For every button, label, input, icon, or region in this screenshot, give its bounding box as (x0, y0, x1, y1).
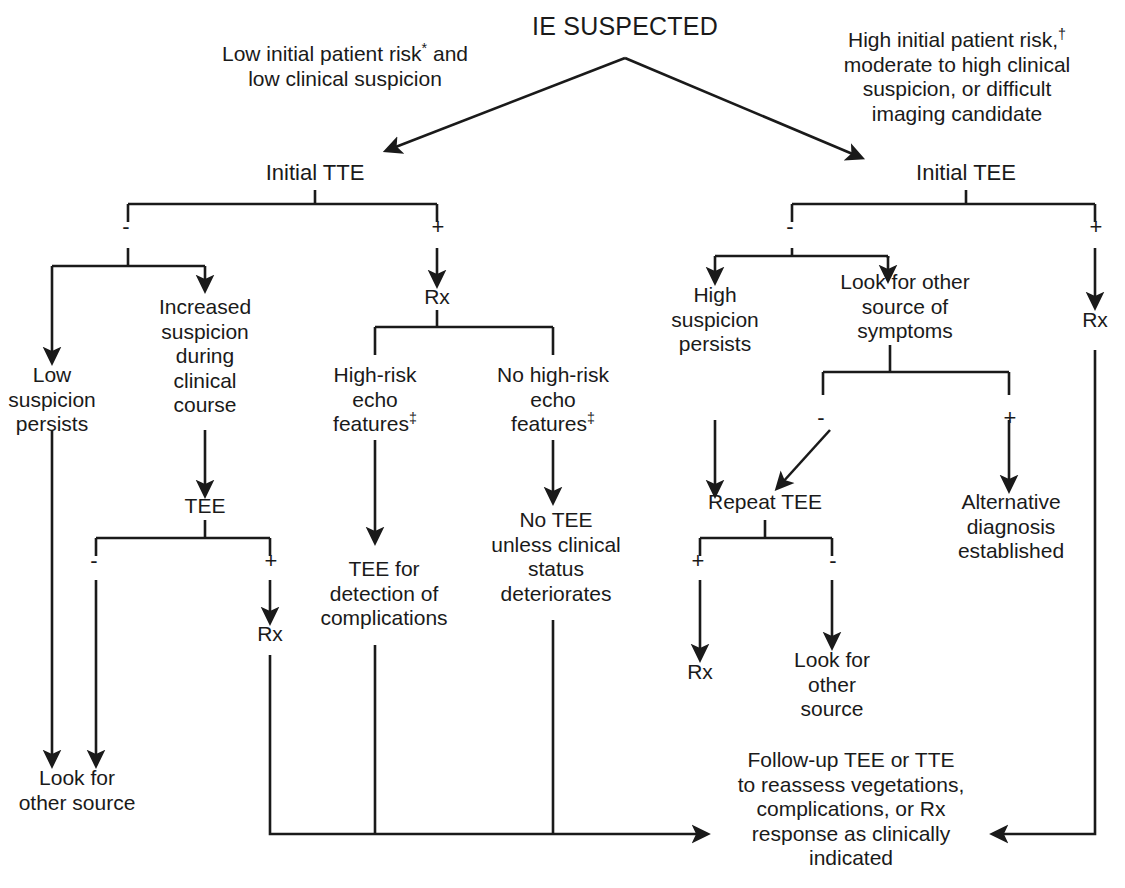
node-no-high-risk-echo-features: No high-risk echo features‡ (463, 363, 643, 437)
node-rx-after-tee: Rx (257, 622, 283, 647)
edge-sym-minus-to-repeat (782, 430, 830, 483)
repeat-plus-sign: + (692, 548, 705, 574)
node-look-for-other-source-symptoms: Look for other source of symptoms (805, 270, 1005, 344)
flowchart-canvas: IE SUSPECTED Low initial patient risk* a… (0, 0, 1125, 888)
node-high-suspicion-persists: High suspicion persists (643, 283, 788, 357)
left-condition-line1-pre: Low initial patient risk (222, 42, 422, 65)
tee2-plus-sign: + (1090, 214, 1103, 240)
edge-rx-to-followup (270, 655, 700, 834)
tee2-minus-sign: - (786, 214, 793, 240)
node-tee-for-detection: TEE for detection of complications (289, 557, 479, 631)
right-condition-line3: suspicion, or difficult (863, 77, 1052, 100)
right-condition-line2: moderate to high clinical (844, 53, 1070, 76)
right-condition-label: High initial patient risk,†moderate to h… (792, 28, 1122, 126)
right-condition-line4: imaging candidate (872, 102, 1042, 125)
dagger-footnote-marker: † (1058, 26, 1066, 42)
node-look-for-other-source-right: Look for other source (757, 648, 907, 722)
node-low-suspicion-persists: Low suspicion persists (0, 363, 122, 437)
left-condition-line1-post: and (427, 42, 468, 65)
tee-minus-sign: - (90, 548, 97, 574)
high-risk-echo-text: High-risk echo features (333, 363, 416, 435)
node-followup-tee-or-tte: Follow-up TEE or TTE to reassess vegetat… (701, 748, 1001, 871)
tee-plus-sign: + (265, 548, 278, 574)
node-look-for-other-source-left: Look for other source (0, 766, 167, 815)
node-repeat-tee: Repeat TEE (708, 490, 822, 515)
left-condition-line2: low clinical suspicion (248, 67, 442, 90)
symptoms-minus-sign: - (817, 405, 824, 431)
node-tee: TEE (185, 494, 226, 519)
node-rx-after-tte-plus: Rx (424, 285, 450, 310)
symptoms-plus-sign: + (1004, 405, 1017, 431)
node-rx-from-tee-plus: Rx (1082, 308, 1108, 333)
node-alternative-diagnosis: Alternative diagnosis established (931, 490, 1091, 564)
left-condition-label: Low initial patient risk* andlow clinica… (185, 42, 505, 91)
node-increased-suspicion: Increased suspicion during clinical cour… (130, 295, 280, 418)
tte-plus-sign: + (432, 214, 445, 240)
double-dagger-footnote-marker-1: ‡ (409, 410, 417, 426)
page-title: IE SUSPECTED (532, 12, 718, 41)
node-no-tee-unless: No TEE unless clinical status deteriorat… (461, 508, 651, 606)
node-initial-tee: Initial TEE (916, 160, 1016, 186)
node-initial-tte: Initial TTE (266, 160, 365, 186)
double-dagger-footnote-marker-2: ‡ (587, 410, 595, 426)
node-high-risk-echo-features: High-risk echo features‡ (295, 363, 455, 437)
tte-minus-sign: - (122, 214, 129, 240)
node-rx-after-repeat-tee: Rx (687, 660, 713, 685)
right-condition-line1-pre: High initial patient risk, (848, 28, 1058, 51)
repeat-minus-sign: - (829, 548, 836, 574)
